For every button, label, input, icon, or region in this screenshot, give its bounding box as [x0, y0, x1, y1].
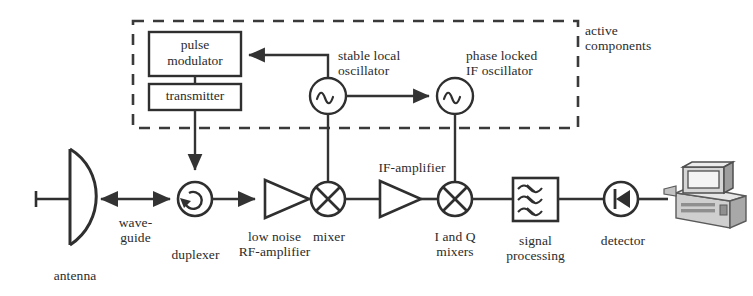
antenna-dish — [70, 149, 96, 245]
mixer-label: mixer — [300, 229, 358, 244]
if-amplifier-label: IF-amplifier — [361, 160, 463, 175]
pulse-modulator-label: pulse modulator — [149, 37, 241, 69]
stable-local-oscillator-circle — [310, 78, 346, 114]
antenna-label: antenna — [30, 268, 120, 283]
signal-processing-label: signal processing — [493, 233, 578, 263]
computer-workstation-icon — [664, 162, 746, 228]
i-and-q-mixers-label: I and Q mixers — [414, 229, 496, 259]
active-components-label: active components — [585, 23, 745, 53]
slo-to-modulator-link — [249, 55, 328, 78]
low-noise-rf-amplifier-triangle — [265, 180, 309, 218]
phase-locked-if-oscillator-label: phase locked IF oscillator — [466, 48, 581, 78]
waveguide-label: wave- guide — [103, 215, 168, 245]
if-amplifier-triangle — [380, 181, 421, 217]
stable-local-oscillator-label: stable local oscillator — [338, 48, 448, 78]
radar-block-diagram: active components pulse modulator transm… — [0, 0, 753, 296]
detector-label: detector — [588, 233, 658, 248]
transmitter-label: transmitter — [149, 88, 241, 104]
phase-locked-if-oscillator-circle — [437, 78, 473, 114]
